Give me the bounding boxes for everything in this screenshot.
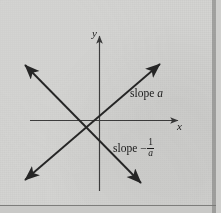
line-slope-a xyxy=(25,64,160,180)
slope-negative-reciprocal-annotation: slope −1a xyxy=(113,138,154,158)
x-axis-label: x xyxy=(177,121,182,132)
slope-neg-numerator: 1 xyxy=(147,138,154,148)
slope-neg-prefix: slope xyxy=(113,142,140,154)
slope-neg-denominator: a xyxy=(147,148,154,159)
slope-a-value: a xyxy=(157,87,163,99)
coordinate-plane-svg xyxy=(0,0,221,213)
y-axis-label: y xyxy=(92,28,97,39)
slope-neg-fraction: 1a xyxy=(147,138,154,158)
page-right-edge-margin xyxy=(216,0,221,213)
slope-a-prefix: slope xyxy=(130,87,157,99)
page-bottom-rule xyxy=(0,205,221,206)
figure-container: y x slope a slope −1a xyxy=(0,0,221,213)
slope-neg-sign: − xyxy=(140,142,147,154)
slope-a-annotation: slope a xyxy=(130,88,163,100)
page-bottom-margin xyxy=(0,206,221,213)
